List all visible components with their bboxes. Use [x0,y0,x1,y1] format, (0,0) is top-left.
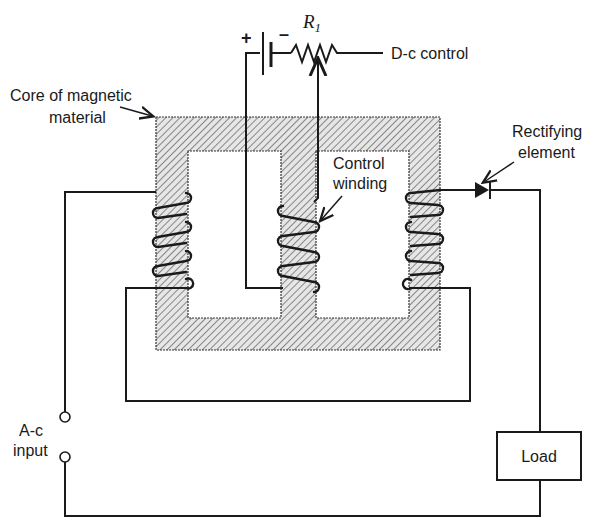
battery-minus-sign: – [279,24,289,44]
magnetic-amplifier-diagram: + – R1 D-c control Core of magnetic mate… [0,0,600,531]
load-box: Load [497,432,581,480]
svg-text:winding: winding [332,175,387,192]
control-winding-label: Control winding [321,155,387,220]
ac-input-terminals: A-c input [13,412,70,462]
svg-text:Core of magnetic: Core of magnetic [10,87,132,104]
svg-text:input: input [13,442,48,459]
svg-text:element: element [518,144,575,161]
potentiometer-r1: R1 [291,11,383,80]
svg-text:material: material [49,109,106,126]
svg-text:Control: Control [333,155,385,172]
rectifying-element [475,181,490,199]
resistor-label: R1 [302,11,321,35]
rectifier-label: Rectifying element [484,123,582,182]
svg-text:A-c: A-c [19,422,43,439]
dc-control-label: D-c control [391,45,468,62]
battery-plus-sign: + [241,28,252,48]
core-label: Core of magnetic material [10,87,152,126]
battery: + – [241,24,291,75]
load-label: Load [521,448,557,465]
svg-text:Rectifying: Rectifying [512,123,582,140]
